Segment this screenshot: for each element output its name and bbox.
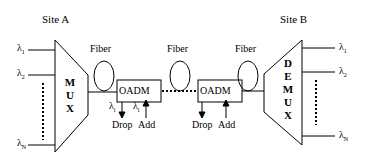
mux-letter: U xyxy=(63,89,77,102)
oadm-1-add-label: Add xyxy=(138,120,155,130)
demux-label: D E M U X xyxy=(281,57,295,122)
fiber-coil-1 xyxy=(94,61,114,91)
fiber-label-2: Fiber xyxy=(167,44,188,54)
site-b-label: Site B xyxy=(280,14,307,25)
oadm-1-drop-label: Drop xyxy=(112,120,133,130)
input-lambda-2: λ2 xyxy=(17,68,25,80)
fiber-coil-3 xyxy=(238,61,258,91)
site-a-label: Site A xyxy=(42,14,69,25)
oadm-1-label: OADM xyxy=(119,86,150,96)
input-lambda-1: λ1 xyxy=(17,43,25,55)
demux-letter: D xyxy=(281,57,295,70)
fiber-label-1: Fiber xyxy=(90,44,111,54)
output-lambda-n: λN xyxy=(339,130,348,142)
mux-label: M U X xyxy=(63,76,77,115)
oadm-1-drop-lambda: λi xyxy=(109,101,116,113)
mux-letter: M xyxy=(63,76,77,89)
oadm-1-add-lambda: λi xyxy=(133,101,140,113)
demux-letter: U xyxy=(281,96,295,109)
demux-letter: E xyxy=(281,70,295,83)
demux-letter: M xyxy=(281,83,295,96)
oadm-2-label: OADM xyxy=(200,86,231,96)
demux-letter: X xyxy=(281,109,295,122)
input-lambda-n: λN xyxy=(17,138,26,150)
fiber-coil-2 xyxy=(170,61,190,91)
fiber-label-3: Fiber xyxy=(235,44,256,54)
output-lambda-1: λ1 xyxy=(339,42,347,54)
oadm-2-drop-label: Drop xyxy=(192,120,213,130)
oadm-2-add-label: Add xyxy=(218,120,235,130)
mux-letter: X xyxy=(63,102,77,115)
output-lambda-2: λ2 xyxy=(339,66,347,78)
